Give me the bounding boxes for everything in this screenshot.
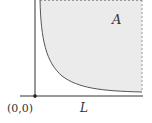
origin-dot	[33, 94, 37, 98]
x-axis-label: L	[79, 101, 88, 115]
region-label: A	[111, 12, 121, 27]
shaded-region-A	[40, 0, 142, 92]
origin-label: (0,0)	[7, 102, 33, 115]
diagram-canvas: A L (0,0)	[0, 0, 152, 123]
